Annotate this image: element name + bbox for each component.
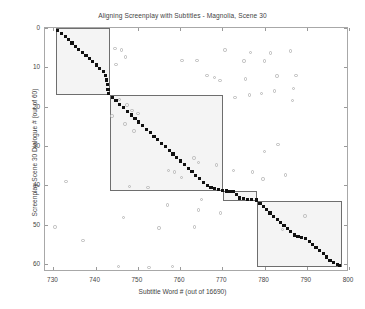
candidate-match-point (114, 63, 117, 66)
y-tick (344, 146, 347, 147)
alignment-path-cell (250, 198, 253, 201)
alignment-path-cell (228, 190, 231, 193)
plot-area (44, 27, 348, 271)
alignment-path-cell (338, 264, 341, 267)
x-tick-label: 730 (47, 276, 58, 283)
alignment-path-cell (238, 196, 241, 199)
alignment-path-cell (122, 106, 125, 109)
alignment-path-cell (114, 99, 117, 102)
candidate-match-point (213, 76, 216, 79)
x-tick (180, 267, 181, 270)
x-tick (96, 267, 97, 270)
alignment-path-cell (289, 230, 292, 233)
alignment-path-cell (332, 261, 335, 264)
candidate-match-point (147, 266, 150, 269)
y-tick-label: 20 (18, 102, 40, 109)
x-tick (138, 267, 139, 270)
x-tick-label: 780 (258, 276, 269, 283)
candidate-match-point (120, 48, 123, 51)
candidate-match-point (215, 163, 218, 166)
y-tick (344, 264, 347, 265)
y-tick-label: 30 (18, 142, 40, 149)
alignment-path-cell (246, 198, 249, 201)
y-tick (344, 67, 347, 68)
alignment-path-cell (202, 181, 205, 184)
y-tick-label: 40 (18, 181, 40, 188)
y-tick (45, 146, 48, 147)
alignment-path-cell (137, 120, 140, 123)
y-tick (45, 225, 48, 226)
candidate-match-point (263, 59, 266, 62)
candidate-match-point (173, 170, 176, 173)
candidate-match-point (167, 169, 170, 172)
x-tick-label: 740 (89, 276, 100, 283)
candidate-match-point (219, 211, 222, 214)
candidate-match-point (248, 93, 251, 96)
candidate-match-point (81, 239, 84, 242)
candidate-match-point (263, 150, 266, 153)
alignment-path-cell (171, 152, 174, 155)
candidate-match-point (269, 51, 272, 54)
x-tick-label: 770 (216, 276, 227, 283)
alignment-path-cell (206, 184, 209, 187)
alignment-path-cell (106, 83, 109, 86)
y-tick (45, 107, 48, 108)
x-tick (265, 28, 266, 31)
alignment-path-cell (133, 117, 136, 120)
y-tick (45, 67, 48, 68)
candidate-match-point (125, 103, 128, 106)
alignment-path-cell (198, 177, 201, 180)
x-tick-label: 750 (132, 276, 143, 283)
y-tick (45, 28, 48, 29)
x-tick-label: 790 (300, 276, 311, 283)
y-tick-label: 50 (18, 220, 40, 227)
candidate-match-point (200, 198, 203, 201)
alignment-path-cell (300, 236, 303, 239)
x-tick-label: 800 (343, 276, 354, 283)
y-tick (344, 28, 347, 29)
alignment-path-cell (296, 235, 299, 238)
candidate-match-point (123, 122, 126, 125)
alignment-path-cell (104, 74, 107, 77)
y-tick (45, 264, 48, 265)
candidate-match-point (260, 92, 263, 95)
alignment-path-cell (217, 188, 220, 191)
y-axis-title: Screenplay Scene 30 Dialogue # (out of 6… (31, 63, 38, 243)
candidate-match-point (251, 170, 254, 173)
alignment-path-cell (102, 70, 105, 73)
alignment-path-cell (107, 92, 110, 95)
candidate-match-point (122, 216, 125, 219)
x-tick (307, 267, 308, 270)
candidate-match-point (192, 156, 195, 159)
x-axis-title: Subtitle Word # (out of 16690) (0, 288, 365, 295)
candidate-match-point (171, 265, 174, 268)
candidate-match-point (157, 226, 160, 229)
candidate-match-point (291, 99, 294, 102)
candidate-match-point (113, 47, 116, 50)
x-tick-label: 760 (174, 276, 185, 283)
alignment-path-cell (272, 215, 275, 218)
alignment-path-cell (213, 187, 216, 190)
alignment-path-cell (194, 174, 197, 177)
candidate-match-point (273, 89, 276, 92)
x-tick (222, 267, 223, 270)
y-tick-label: 0 (18, 24, 40, 31)
candidate-match-point (284, 173, 287, 176)
alignment-path-cell (56, 29, 59, 32)
x-tick (222, 28, 223, 31)
alignment-path-cell (77, 48, 80, 51)
x-tick (53, 267, 54, 270)
alignment-path-cell (118, 103, 121, 106)
alignment-path-cell (318, 249, 321, 252)
alignment-path-cell (304, 237, 307, 240)
alignment-path-cell (187, 167, 190, 170)
alignment-path-cell (106, 88, 109, 91)
candidate-match-point (132, 129, 135, 132)
alignment-path-cell (130, 113, 133, 116)
candidate-match-point (130, 109, 133, 112)
candidate-match-point (249, 51, 252, 54)
candidate-match-point (117, 265, 120, 268)
alignment-path-cell (255, 198, 258, 201)
candidate-match-point (110, 114, 113, 117)
candidate-match-point (242, 59, 245, 62)
